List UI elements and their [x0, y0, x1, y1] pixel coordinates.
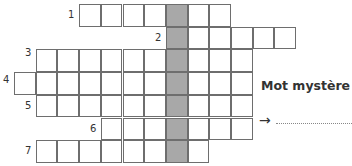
letter-cell[interactable]	[209, 118, 231, 141]
letter-cell[interactable]	[188, 118, 210, 141]
letter-cell[interactable]	[101, 72, 123, 95]
clue-number: 3	[25, 47, 31, 59]
letter-cell[interactable]	[231, 27, 253, 50]
letter-cell[interactable]	[209, 4, 231, 27]
letter-cell[interactable]	[36, 95, 58, 118]
letter-cell[interactable]	[209, 95, 231, 118]
letter-cell[interactable]	[123, 49, 145, 72]
letter-cell[interactable]	[79, 49, 101, 72]
clue-number: 6	[90, 123, 96, 135]
letter-cell[interactable]	[144, 95, 166, 118]
mystery-letter-cell[interactable]	[166, 95, 188, 118]
letter-cell[interactable]	[188, 95, 210, 118]
letter-cell[interactable]	[144, 72, 166, 95]
letter-cell[interactable]	[231, 118, 253, 141]
letter-cell[interactable]	[101, 140, 123, 163]
letter-cell[interactable]	[231, 72, 253, 95]
letter-cell[interactable]	[253, 27, 275, 50]
letter-cell[interactable]	[188, 49, 210, 72]
letter-cell[interactable]	[57, 72, 79, 95]
mystery-letter-cell[interactable]	[166, 49, 188, 72]
letter-cell[interactable]	[57, 95, 79, 118]
letter-cell[interactable]	[57, 140, 79, 163]
mystery-letter-cell[interactable]	[166, 27, 188, 50]
letter-cell[interactable]	[231, 95, 253, 118]
mystery-letter-cell[interactable]	[166, 72, 188, 95]
letter-cell[interactable]	[231, 49, 253, 72]
arrow-right-icon: →	[259, 112, 271, 128]
mystery-word-answer-line[interactable]	[276, 123, 352, 124]
letter-cell[interactable]	[79, 4, 101, 27]
clue-number: 2	[155, 32, 161, 44]
clue-number: 1	[68, 9, 74, 21]
letter-cell[interactable]	[188, 72, 210, 95]
mystery-letter-cell[interactable]	[166, 4, 188, 27]
letter-cell[interactable]	[209, 72, 231, 95]
letter-cell[interactable]	[14, 72, 36, 95]
letter-cell[interactable]	[79, 72, 101, 95]
mystery-word-title: Mot mystère	[261, 78, 350, 93]
letter-cell[interactable]	[123, 95, 145, 118]
mystery-letter-cell[interactable]	[166, 118, 188, 141]
letter-cell[interactable]	[144, 4, 166, 27]
letter-cell[interactable]	[79, 95, 101, 118]
letter-cell[interactable]	[123, 4, 145, 27]
letter-cell[interactable]	[123, 118, 145, 141]
letter-cell[interactable]	[144, 118, 166, 141]
letter-cell[interactable]	[101, 49, 123, 72]
letter-cell[interactable]	[144, 140, 166, 163]
letter-cell[interactable]	[209, 49, 231, 72]
letter-cell[interactable]	[188, 4, 210, 27]
letter-cell[interactable]	[209, 27, 231, 50]
letter-cell[interactable]	[123, 72, 145, 95]
letter-cell[interactable]	[101, 118, 123, 141]
clue-number: 5	[25, 100, 31, 112]
clue-number: 4	[3, 74, 9, 86]
letter-cell[interactable]	[188, 140, 210, 163]
clue-number: 7	[25, 145, 31, 157]
letter-cell[interactable]	[101, 4, 123, 27]
letter-cell[interactable]	[36, 140, 58, 163]
letter-cell[interactable]	[101, 95, 123, 118]
letter-cell[interactable]	[36, 72, 58, 95]
letter-cell[interactable]	[144, 49, 166, 72]
letter-cell[interactable]	[274, 27, 296, 50]
letter-cell[interactable]	[36, 49, 58, 72]
mystery-letter-cell[interactable]	[166, 140, 188, 163]
letter-cell[interactable]	[188, 27, 210, 50]
letter-cell[interactable]	[79, 140, 101, 163]
letter-cell[interactable]	[123, 140, 145, 163]
letter-cell[interactable]	[57, 49, 79, 72]
